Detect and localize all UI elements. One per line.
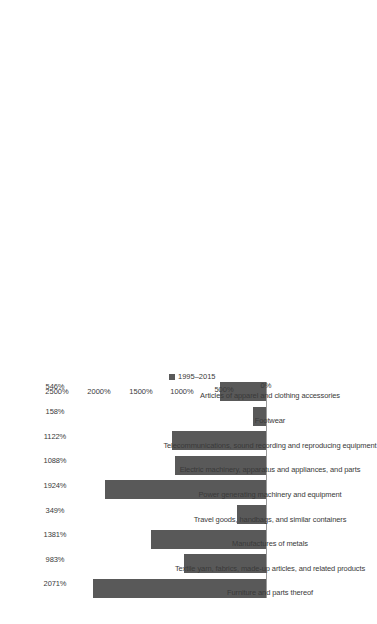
category-label: Footwear: [268, 407, 298, 426]
category-label: Textile yarn, fabrics, made-up articles,…: [268, 554, 298, 573]
chart-figure: 2071%983%1381%349%1924%1088%1122%158%546…: [19, 0, 301, 624]
bar-value-label: 158%: [46, 407, 65, 416]
bar-value-label: 1924%: [44, 481, 67, 490]
bar-value-label: 1088%: [44, 456, 67, 465]
category-label: Articles of apparel and clothing accesso…: [268, 382, 298, 401]
bar-value-label: 546%: [46, 383, 65, 392]
category-axis-labels: Furniture and parts thereofTextile yarn,…: [268, 382, 298, 598]
category-label: Manufactures of metals: [268, 530, 298, 549]
category-label: Power generating machinery and equipment: [268, 481, 298, 500]
category-label: Furniture and parts thereof: [268, 579, 298, 598]
bar-value-label: 1381%: [44, 530, 67, 539]
category-label: Travel goods, handbags, and similar cont…: [268, 505, 298, 524]
bar-value-label: 2071%: [44, 580, 67, 589]
legend-label: 1995–2015: [178, 372, 216, 381]
bar-value-label: 983%: [46, 555, 65, 564]
category-label: Electric machinery, apparatus and applia…: [268, 456, 298, 475]
legend-swatch-icon: [169, 374, 175, 380]
bar-value-label: 1122%: [44, 432, 66, 441]
chart-legend: 1995–2015: [169, 372, 216, 381]
category-label: Telecommunications, sound recording and …: [268, 431, 298, 450]
plot-area: 2071%983%1381%349%1924%1088%1122%158%546…: [19, 0, 301, 624]
bar-slot: 158%: [57, 407, 266, 426]
bar-value-label: 349%: [46, 506, 65, 515]
